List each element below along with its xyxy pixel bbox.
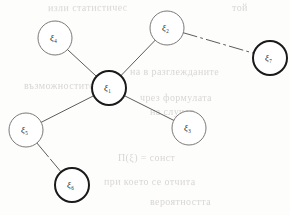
graph-node-ξ3[interactable]: ξ3 bbox=[172, 111, 206, 145]
graph-edge bbox=[124, 96, 174, 121]
graph-node-ξ7[interactable]: ξ7 bbox=[253, 41, 287, 75]
graph-edge bbox=[41, 96, 94, 123]
graph-edge bbox=[121, 40, 155, 76]
graph-node-ξ4[interactable]: ξ4 bbox=[38, 21, 72, 55]
nodes-group: ξ1ξ2ξ3ξ4ξ5ξ6ξ7 bbox=[9, 11, 287, 202]
figure-canvas: изли статистичестойна в разглежданитевъз… bbox=[0, 0, 290, 215]
graph-edge bbox=[67, 50, 96, 77]
graph-edge bbox=[183, 33, 253, 53]
edges-group bbox=[37, 33, 254, 172]
graph-node-ξ6[interactable]: ξ6 bbox=[55, 168, 89, 202]
graph-edge bbox=[37, 143, 61, 172]
graph-node-ξ5[interactable]: ξ5 bbox=[9, 113, 43, 147]
graph-diagram: ξ1ξ2ξ3ξ4ξ5ξ6ξ7 bbox=[0, 0, 290, 215]
graph-node-ξ1[interactable]: ξ1 bbox=[92, 71, 126, 105]
graph-node-ξ2[interactable]: ξ2 bbox=[150, 11, 184, 45]
node-label-subscript: 7 bbox=[269, 58, 272, 64]
node-label-subscript: 5 bbox=[25, 130, 28, 136]
